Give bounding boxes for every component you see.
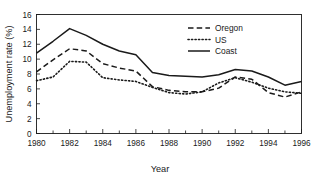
legend-label-oregon: Oregon [215,23,243,33]
y-tick-label: 0 [27,130,32,139]
y-tick-label: 2 [27,115,32,124]
y-tick-label: 14 [22,25,32,34]
y-axis: 0246810121416 [22,11,40,139]
legend-label-us: US [215,35,227,45]
x-tick-label: 1990 [193,139,212,148]
x-tick-label: 1996 [292,139,311,148]
y-tick-label: 10 [22,55,32,64]
x-tick-label: 1980 [27,139,46,148]
x-tick-label: 1986 [127,139,146,148]
legend-label-coast: Coast [215,46,238,56]
x-tick-label: 1992 [226,139,245,148]
series-line-coast [37,29,302,86]
x-tick-label: 1984 [94,139,113,148]
series-line-us [37,61,302,94]
series-group [37,29,302,97]
y-tick-label: 12 [22,40,32,49]
x-axis: 198019821984198619881990199219941996 [27,129,311,148]
y-tick-label: 6 [27,85,32,94]
y-tick-label: 16 [22,11,32,20]
y-axis-label: Unemployment rate (%) [4,25,14,122]
y-tick-label: 8 [27,70,32,79]
x-tick-label: 1982 [61,139,80,148]
series-line-oregon [37,49,302,97]
unemployment-rate-line-chart: 0246810121416 19801982198419861988199019… [0,0,322,179]
chart-legend: OregonUSCoast [188,23,243,56]
x-tick-label: 1994 [259,139,278,148]
x-tick-label: 1988 [160,139,179,148]
y-tick-label: 4 [27,100,32,109]
x-axis-label: Year [151,164,170,174]
chart-figure: 0246810121416 19801982198419861988199019… [0,0,322,179]
